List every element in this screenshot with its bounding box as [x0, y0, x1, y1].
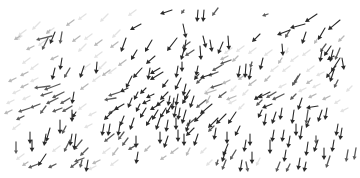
arrow-field — [0, 0, 360, 178]
arrow-shaft — [217, 160, 218, 163]
arrow-shaft — [96, 62, 97, 70]
arrow-shaft — [203, 10, 204, 18]
arrow-field-image — [0, 0, 360, 178]
arrow-shaft — [245, 64, 246, 74]
arrow-shaft — [287, 48, 288, 51]
arrow-shaft — [197, 10, 198, 18]
arrow-shaft — [282, 44, 283, 52]
arrow-shaft — [183, 10, 184, 11]
arrow-shaft — [251, 62, 252, 65]
arrow-shaft — [200, 46, 201, 56]
arrow-shaft — [228, 36, 229, 46]
arrow-shaft — [265, 14, 268, 15]
